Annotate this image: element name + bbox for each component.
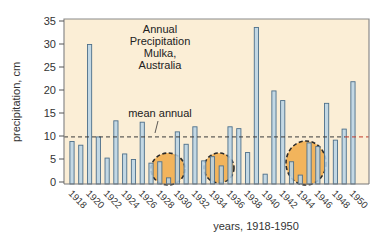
bar-1922 [105,158,109,184]
bar-1930 [175,132,179,184]
mean-annual-label: mean annual [128,107,192,119]
x-tick-label-1932: 1932 [190,188,213,211]
x-tick-label-1930: 1930 [172,188,195,211]
y-axis: 05101520253035 [44,15,64,188]
bar-1928 [158,162,162,184]
bar-1945 [307,143,311,184]
y-axis-title: precipitation, cm [10,62,22,142]
bar-1944 [298,175,302,184]
bar-1918 [70,142,74,184]
bar-1925 [131,159,135,184]
x-axis-title: years, 1918-1950 [213,220,299,232]
bar-1938 [246,153,250,184]
y-tick-label: 30 [44,38,56,50]
chart-title-line: Australia [139,59,183,71]
bar-1929 [166,178,170,184]
bar-1923 [114,121,118,184]
bar-1948 [333,140,337,184]
x-tick-label-1936: 1936 [225,188,248,211]
x-tick-label-1926: 1926 [137,188,160,211]
chart-title-line: Mulka, [144,47,176,59]
y-tick-label: 15 [44,107,56,119]
bar-1934 [210,157,214,184]
x-tick-label-1938: 1938 [242,188,265,211]
y-tick-label: 0 [50,176,56,188]
bar-1939 [254,27,258,184]
precipitation-bar-chart: 05101520253035 1918192019221924192619281… [0,0,389,240]
y-tick-label: 5 [50,153,56,165]
bar-1942 [281,101,285,184]
x-tick-label-1922: 1922 [102,188,125,211]
x-axis: 1918192019221924192619281930193219341936… [67,188,371,211]
bar-1920 [87,44,91,184]
bar-1936 [228,127,232,184]
x-tick-label-1950: 1950 [348,188,371,211]
x-tick-label-1924: 1924 [119,188,142,211]
bar-1924 [123,154,127,184]
bar-1927 [149,163,153,184]
bar-1941 [272,91,276,184]
x-tick-label-1948: 1948 [330,188,353,211]
bar-1947 [325,103,329,184]
bar-1932 [193,127,197,184]
bar-1919 [79,145,83,184]
y-tick-label: 10 [44,130,56,142]
x-tick-label-1928: 1928 [154,188,177,211]
y-tick-label: 20 [44,84,56,96]
bar-1935 [219,166,223,184]
x-tick-label-1918: 1918 [67,188,90,211]
bar-1950 [351,82,355,184]
x-tick-label-1934: 1934 [207,188,230,211]
x-tick-label-1942: 1942 [277,188,300,211]
bar-1946 [316,147,320,184]
chart-title-line: Precipitation [130,35,191,47]
x-tick-label-1944: 1944 [295,188,318,211]
bar-1940 [263,174,267,184]
x-tick-label-1946: 1946 [312,188,335,211]
x-tick-label-1940: 1940 [260,188,283,211]
x-tick-label-1920: 1920 [84,188,107,211]
bar-1926 [140,122,144,184]
bar-1931 [184,144,188,184]
chart-title-line: Annual [143,23,177,35]
bar-1921 [96,137,100,184]
bar-1943 [289,162,293,184]
y-tick-label: 35 [44,15,56,27]
y-tick-label: 25 [44,61,56,73]
bar-1933 [202,161,206,184]
